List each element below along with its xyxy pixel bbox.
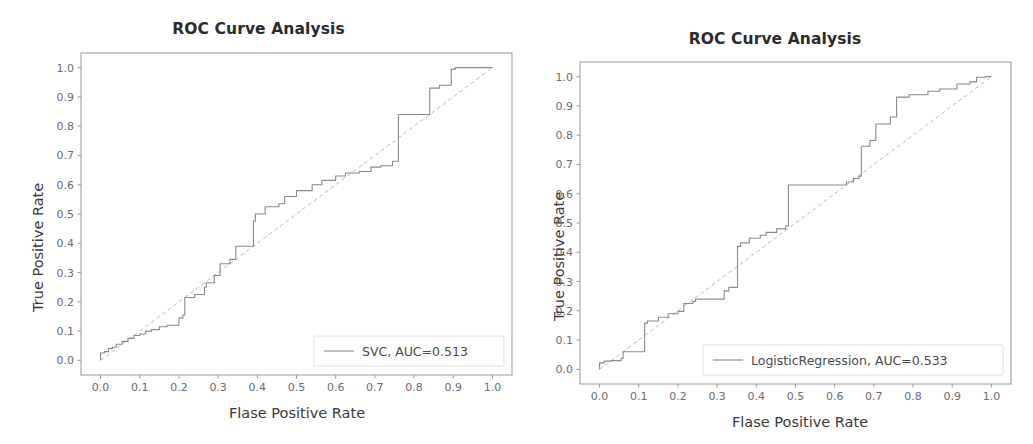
x-axis-tick-label: 0.9 (444, 381, 462, 394)
y-axis-tick-label: 1.0 (556, 71, 574, 84)
y-axis-tick-label: 0.8 (556, 129, 574, 142)
plot-area-svc: 0.00.10.20.30.40.50.60.70.80.91.00.00.10… (0, 0, 517, 444)
chance-diagonal-line (600, 77, 992, 370)
x-axis-tick-label: 0.2 (170, 381, 188, 394)
x-axis-tick-label: 1.0 (983, 390, 1001, 403)
y-axis-tick-label: 0.3 (57, 267, 75, 280)
x-axis-tick-label: 0.5 (288, 381, 306, 394)
x-axis-tick-label: 0.1 (630, 390, 648, 403)
roc-chart-logisticregression: ROC Curve Analysis True Positive Rate Fl… (517, 0, 1033, 444)
y-axis-tick-label: 1.0 (57, 62, 75, 75)
x-axis-tick-label: 0.4 (249, 381, 267, 394)
y-axis-tick-label: 0.8 (57, 120, 75, 133)
y-axis-tick-label: 0.4 (556, 246, 574, 259)
y-axis-tick-label: 0.4 (57, 237, 75, 250)
plot-area-logisticregression: 0.00.10.20.30.40.50.60.70.80.91.00.00.10… (517, 0, 1033, 444)
y-axis-tick-label: 0.0 (556, 363, 574, 376)
x-axis-tick-label: 0.1 (131, 381, 149, 394)
x-axis-tick-label: 0.7 (865, 390, 883, 403)
x-axis-tick-label: 0.7 (366, 381, 384, 394)
y-axis-tick-label: 0.9 (57, 91, 75, 104)
y-axis-tick-label: 0.7 (556, 158, 574, 171)
y-axis-tick-label: 0.5 (556, 217, 574, 230)
y-axis-tick-label: 0.1 (556, 334, 574, 347)
roc-chart-svc: ROC Curve Analysis True Positive Rate Fl… (0, 0, 517, 444)
y-axis-tick-label: 0.5 (57, 208, 75, 221)
x-axis-tick-label: 0.0 (92, 381, 110, 394)
y-axis-tick-label: 0.6 (556, 188, 574, 201)
y-axis-tick-label: 0.7 (57, 149, 75, 162)
legend-label: SVC, AUC=0.513 (362, 344, 468, 359)
x-axis-tick-label: 0.3 (209, 381, 227, 394)
y-axis-tick-label: 0.2 (556, 305, 574, 318)
roc-figure: ROC Curve Analysis True Positive Rate Fl… (0, 0, 1033, 444)
legend-label: LogisticRegression, AUC=0.533 (751, 353, 948, 368)
y-axis-tick-label: 0.0 (57, 354, 75, 367)
x-axis-tick-label: 1.0 (484, 381, 502, 394)
y-axis-tick-label: 0.9 (556, 100, 574, 113)
y-axis-tick-label: 0.3 (556, 276, 574, 289)
x-axis-tick-label: 0.6 (826, 390, 844, 403)
x-axis-tick-label: 0.4 (748, 390, 766, 403)
x-axis-tick-label: 0.5 (787, 390, 805, 403)
x-axis-tick-label: 0.0 (591, 390, 609, 403)
x-axis-tick-label: 0.9 (943, 390, 961, 403)
x-axis-tick-label: 0.3 (708, 390, 726, 403)
x-axis-tick-label: 0.6 (327, 381, 345, 394)
y-axis-tick-label: 0.6 (57, 179, 75, 192)
y-axis-tick-label: 0.2 (57, 296, 75, 309)
x-axis-tick-label: 0.2 (669, 390, 687, 403)
x-axis-tick-label: 0.8 (904, 390, 922, 403)
y-axis-tick-label: 0.1 (57, 325, 75, 338)
x-axis-tick-label: 0.8 (405, 381, 423, 394)
chance-diagonal-line (101, 68, 493, 361)
